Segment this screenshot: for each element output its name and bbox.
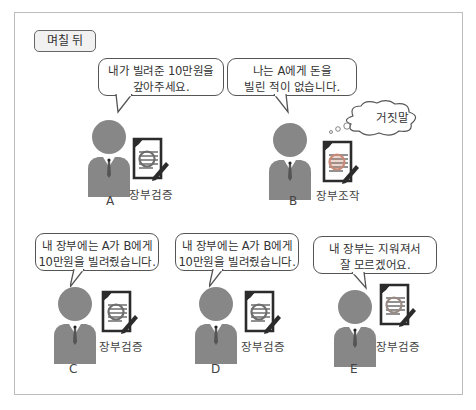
speech-tail-a bbox=[112, 94, 134, 114]
character-label-b: B bbox=[289, 194, 297, 208]
thought-dot bbox=[330, 131, 333, 134]
ledger-document-icon bbox=[243, 290, 283, 336]
character-label-a: A bbox=[106, 194, 114, 208]
ledger-document-icon bbox=[100, 290, 140, 336]
ledger-caption-c: 장부검증 bbox=[99, 338, 143, 354]
speech-bubble-c: 내 장부에는 A가 B에게 10만원을 빌려줬습니다. bbox=[35, 233, 159, 271]
thought-dot bbox=[336, 127, 341, 132]
ledger-caption-e: 장부검증 bbox=[376, 338, 420, 354]
person-icon bbox=[52, 284, 98, 364]
speech-bubble-b: 나는 A에게 돈을 빌린 적이 없습니다. bbox=[227, 58, 357, 96]
ledger-caption-a: 장부검증 bbox=[129, 186, 173, 202]
character-label-c: C bbox=[69, 362, 77, 376]
character-label-d: D bbox=[211, 362, 220, 376]
person-icon bbox=[332, 287, 378, 367]
magnifier-icon bbox=[330, 155, 345, 170]
ledger-caption-d: 장부검증 bbox=[241, 338, 285, 354]
thought-dot bbox=[344, 123, 350, 129]
ledger-document-icon bbox=[131, 137, 171, 183]
person-icon bbox=[267, 120, 313, 200]
speech-bubble-d: 내 장부에는 A가 B에게 10만원을 빌려줬습니다. bbox=[175, 233, 299, 271]
thought-text: 거짓말 bbox=[376, 109, 409, 125]
speech-bubble-e: 내 장부는 지워져서 잘 모르겠어요. bbox=[313, 236, 437, 274]
speech-bubble-a: 내가 빌려준 10만원을 갚아주세요. bbox=[98, 58, 224, 96]
ledger-document-icon bbox=[378, 283, 418, 329]
scene-label: 며칠 뒤 bbox=[34, 30, 96, 52]
speech-tail-b bbox=[272, 94, 294, 114]
ledger-caption-b: 장부조작 bbox=[316, 187, 360, 203]
person-icon bbox=[193, 284, 239, 364]
person-icon bbox=[86, 117, 132, 197]
ledger-document-icon bbox=[321, 140, 361, 186]
character-label-e: E bbox=[350, 362, 358, 376]
